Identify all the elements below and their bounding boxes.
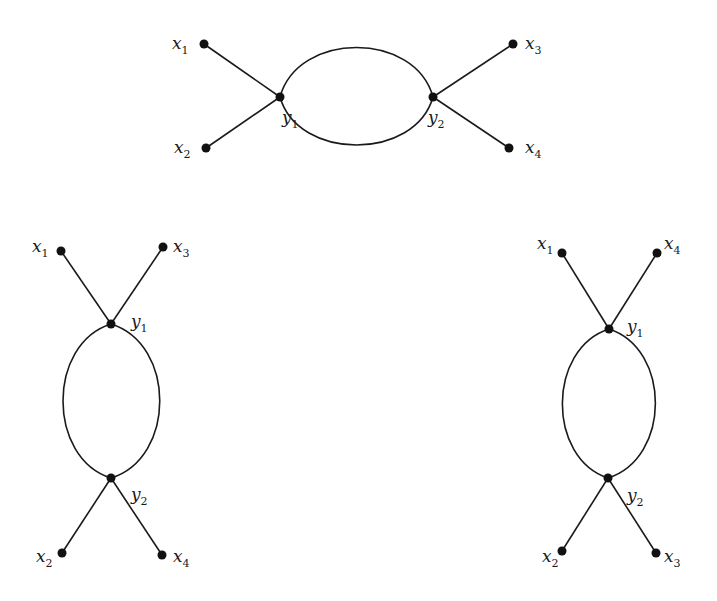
diagram-left-vertical: x1x3x2x4y1y2 [32,236,190,570]
loop-propagator-upper [562,329,609,478]
diagram-right-vertical: x1x4x2x3y1y2 [537,233,681,570]
external_nodes-label-x1: x1 [537,233,554,257]
external-leg-x1 [61,251,111,324]
external_nodes-label-x2: x2 [542,546,559,570]
external-vertex-x1 [200,40,209,49]
feynman-diagrams-canvas: x1x2x3x4y1y2 x1x3x2x4y1y2 x1x4x2x3y1y2 [0,0,717,601]
internal-vertex-y2 [107,474,116,483]
external_nodes-label-x2: x2 [36,546,53,570]
internal-vertex-y1 [107,320,116,329]
external_nodes-label-x3: x3 [173,236,190,260]
external_nodes-label-x3: x3 [664,546,681,570]
loop-propagator-upper [63,324,111,478]
internal_nodes-label-y1: y1 [130,311,148,335]
external-leg-x1 [204,44,280,97]
external-vertex-x3 [509,40,518,49]
external-vertex-x2 [558,547,567,556]
loop-propagator-upper [280,48,433,98]
external_nodes-label-x1: x1 [172,33,189,57]
internal_nodes-label-y2: y2 [626,485,644,509]
loop-propagator-lower [111,324,160,478]
external-vertex-x4 [653,249,662,258]
internal-vertex-y1 [276,93,285,102]
external-leg-x1 [562,253,609,329]
diagram-top-horizontal: x1x2x3x4y1y2 [172,33,542,161]
internal_nodes-label-y1: y1 [281,107,299,131]
internal-vertex-y2 [604,474,613,483]
external_nodes-label-x2: x2 [174,137,191,161]
external_nodes-label-x4: x4 [173,546,190,570]
external-vertex-x4 [158,551,167,560]
internal-vertex-y1 [605,325,614,334]
external-vertex-x3 [652,549,661,558]
internal_nodes-label-y2: y2 [130,484,148,508]
loop-propagator-lower [280,97,433,145]
external-leg-x3 [433,44,513,97]
external-vertex-x1 [57,247,66,256]
external-vertex-x2 [58,549,67,558]
external_nodes-label-x4: x4 [525,137,542,161]
external-vertex-x1 [558,249,567,258]
external-leg-x2 [206,97,280,148]
external-leg-x2 [562,478,608,551]
internal_nodes-label-y2: y2 [427,107,445,131]
external-vertex-x4 [505,144,514,153]
loop-propagator-lower [608,329,655,478]
external-leg-x2 [62,478,111,553]
external_nodes-label-x3: x3 [525,33,542,57]
internal-vertex-y2 [429,93,438,102]
external-vertex-x3 [159,243,168,252]
external_nodes-label-x4: x4 [664,233,681,257]
external_nodes-label-x1: x1 [32,236,49,260]
external-vertex-x2 [202,144,211,153]
internal_nodes-label-y1: y1 [626,316,644,340]
